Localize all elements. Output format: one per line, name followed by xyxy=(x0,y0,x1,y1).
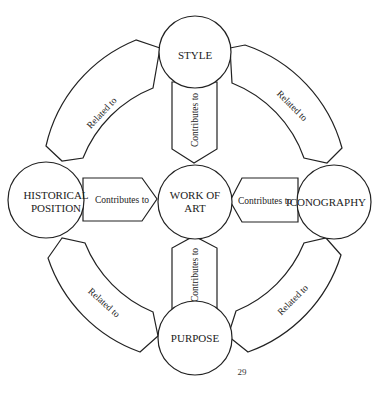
node-style: STYLE xyxy=(159,16,231,88)
arrow-label-historical-to-work: Contributes to xyxy=(95,195,149,205)
node-work-of-art-line2: ART xyxy=(184,202,206,214)
node-historical-position-line2: POSITION xyxy=(31,202,81,214)
arc-iconography-purpose: Related to xyxy=(228,238,341,352)
node-historical-position: HISTORICAL POSITION xyxy=(8,162,89,238)
node-historical-position-line1: HISTORICAL xyxy=(23,189,88,201)
arrow-label-style-to-work: Contributes to xyxy=(190,93,200,147)
node-iconography: ICONOGRAPHY xyxy=(286,165,371,239)
node-purpose: PURPOSE xyxy=(158,301,232,375)
arc-style-iconography: Related to xyxy=(230,45,342,163)
node-iconography-label: ICONOGRAPHY xyxy=(286,196,366,208)
node-purpose-label: PURPOSE xyxy=(171,332,220,344)
arrow-label-iconography-to-work: Contributes to xyxy=(238,196,292,206)
diagram-canvas: Related to Related to Related to Related… xyxy=(0,0,383,399)
node-work-of-art-line1: WORK OF xyxy=(170,189,220,201)
arrow-historical-to-work: Contributes to xyxy=(83,178,157,221)
node-work-of-art: WORK OF ART xyxy=(158,165,232,239)
arc-historical-purpose: Related to xyxy=(48,238,158,352)
arc-style-historical: Related to xyxy=(46,40,160,161)
page-number: 29 xyxy=(238,367,248,377)
arrow-style-to-work: Contributes to xyxy=(172,82,217,163)
node-style-label: STYLE xyxy=(178,49,213,61)
arrow-label-purpose-to-work: Contributes to xyxy=(190,248,200,302)
